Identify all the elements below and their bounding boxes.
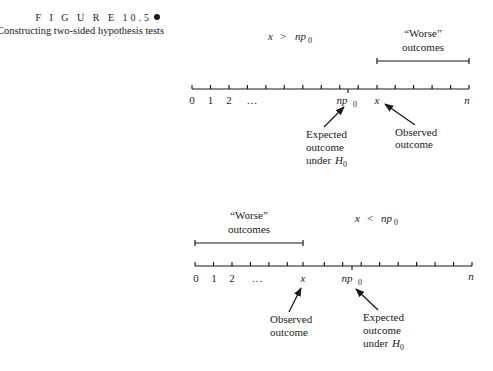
upper-expected-arrow [324,107,344,127]
lower-condition: x < np 0 [354,212,398,227]
svg-text:“Worse”: “Worse” [404,27,442,39]
upper-number-line [192,85,469,93]
lower-worse-label: “Worse” outcomes [228,209,270,235]
upper-observed-arrow [385,104,415,125]
lower-observed-arrow [289,288,301,312]
hypothesis-diagram: x > np 0 “Worse” outcomes [0,0,493,371]
svg-text:x: x [354,212,360,224]
svg-text:0: 0 [189,94,195,106]
svg-text:np: np [295,30,307,42]
lower-observed-annotation: Observed outcome [270,313,313,338]
svg-text:1: 1 [211,272,217,284]
svg-text:underH0: underH0 [363,337,404,352]
svg-text:n: n [468,270,474,282]
svg-text:np: np [381,212,393,224]
svg-text:Observed: Observed [395,126,438,138]
svg-text:2: 2 [229,272,235,284]
upper-panel: x > np 0 “Worse” outcomes [189,27,470,169]
upper-worse-label: “Worse” outcomes [402,27,444,53]
svg-text:0: 0 [358,278,362,287]
lower-expected-arrow [356,289,378,310]
upper-axis-labels: 0 1 2 … np 0 x n [189,94,470,109]
upper-observed-annotation: Observed outcome [395,126,438,150]
svg-text:0: 0 [353,100,357,109]
lower-worse-region-bar [195,240,303,246]
svg-text:outcomes: outcomes [402,41,444,53]
svg-text:1: 1 [208,94,214,106]
lower-expected-annotation: Expected outcome underH0 [363,311,404,352]
svg-text:x: x [300,272,306,284]
upper-expected-annotation: Expected outcome underH0 [306,128,347,169]
svg-text:…: … [247,94,258,106]
svg-text:n: n [464,94,470,106]
svg-text:x: x [374,94,380,106]
svg-text:outcomes: outcomes [228,223,270,235]
svg-text:outcome: outcome [363,324,401,336]
svg-text:x: x [267,30,273,42]
svg-text:2: 2 [226,94,232,106]
svg-text:np: np [342,272,354,284]
svg-text:np: np [337,94,349,106]
upper-condition: x > np 0 [267,30,312,45]
svg-text:0: 0 [308,36,312,45]
svg-text:0: 0 [193,272,199,284]
svg-text:outcome: outcome [306,141,344,153]
lower-number-line [195,262,472,270]
svg-text:Expected: Expected [363,311,404,323]
upper-worse-region-bar [377,58,469,64]
svg-text:“Worse”: “Worse” [230,209,268,221]
svg-text:outcome: outcome [270,326,308,338]
svg-text:underH0: underH0 [306,154,347,169]
svg-text:outcome: outcome [395,138,433,150]
lower-axis-labels: 0 1 2 … x np 0 n [193,270,474,287]
svg-text:<: < [367,212,373,224]
svg-text:0: 0 [394,218,398,227]
svg-text:Observed: Observed [270,313,313,325]
lower-panel: “Worse” outcomes x < np 0 [193,209,474,352]
svg-text:>: > [280,30,286,42]
svg-text:Expected: Expected [306,128,347,140]
svg-text:…: … [252,272,263,284]
